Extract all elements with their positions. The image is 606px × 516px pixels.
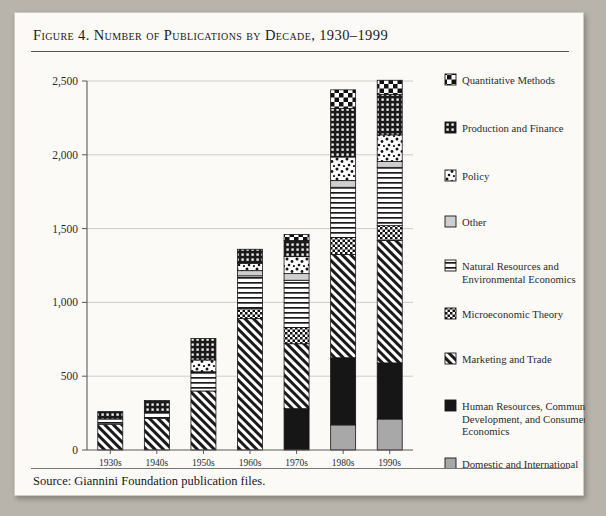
bar-segment [284, 344, 309, 409]
chart-legend: Quantitative MethodsProduction and Finan… [445, 74, 585, 469]
bar-segment [284, 274, 309, 281]
bar-segment [377, 94, 402, 135]
bar-1980s [331, 90, 356, 450]
legend-item: Marketing and Trade [445, 353, 552, 365]
bar-segment [238, 249, 263, 263]
bar-1940s [144, 401, 169, 450]
legend-item: Quantitative Methods [445, 74, 555, 86]
legend-swatch [445, 216, 456, 227]
bar-segment [284, 327, 309, 343]
x-axis-tick-label: 1990s [378, 458, 401, 468]
bar-segment [331, 425, 356, 450]
bar-segment [144, 412, 169, 419]
y-axis-tick-label: 1,000 [52, 296, 78, 309]
legend-item: Human Resources, CommunityDevelopment, a… [445, 400, 585, 437]
x-axis-tick-label: 1950s [192, 458, 215, 468]
bar-segment [377, 240, 402, 363]
bar-segment [331, 254, 356, 357]
y-axis-tick-label: 2,000 [52, 149, 78, 162]
bar-segment [284, 409, 309, 450]
x-axis-tick-label: 1970s [285, 458, 308, 468]
y-axis-tick-label: 500 [61, 370, 79, 382]
legend-label: Marketing and Trade [462, 353, 552, 365]
bar-segment [191, 360, 216, 372]
legend-swatch [445, 74, 456, 85]
legend-swatch [445, 353, 456, 364]
bar-1990s [377, 80, 402, 450]
bar-segment [331, 108, 356, 157]
bar-segment [331, 237, 356, 254]
bars-group [98, 80, 402, 450]
bar-segment [377, 226, 402, 241]
publications-stacked-bar-chart: 05001,0001,5002,0002,500 1930s1940s1950s… [15, 57, 585, 469]
bar-segment [98, 419, 123, 424]
bar-segment [377, 363, 402, 419]
legend-label: Policy [462, 170, 490, 182]
legend-item: Natural Resources andEnvironmental Econo… [445, 260, 576, 285]
bar-segment [377, 167, 402, 225]
bar-segment [98, 424, 123, 450]
bar-segment [331, 157, 356, 181]
legend-item: Microeconomic Theory [445, 308, 564, 320]
bar-segment [377, 419, 402, 450]
bar-segment [284, 257, 309, 274]
bar-segment [377, 161, 402, 167]
bar-segment [144, 418, 169, 450]
legend-swatch [445, 400, 456, 411]
bar-1970s [284, 235, 309, 450]
bar-segment [331, 187, 356, 237]
y-axis-tick-label: 1,500 [52, 223, 78, 236]
bar-segment [377, 80, 402, 94]
x-axis-tick-label: 1940s [146, 458, 169, 468]
bar-1950s [191, 339, 216, 450]
legend-swatch [445, 170, 456, 181]
bar-segment [238, 308, 263, 318]
bar-segment [191, 391, 216, 450]
bar-segment [377, 135, 402, 162]
bar-segment [238, 276, 263, 308]
legend-item: Production and Finance [445, 122, 564, 134]
bar-1960s [238, 249, 263, 450]
bar-segment [191, 339, 216, 360]
page-title: Figure 4. Number of Publications by Deca… [33, 27, 553, 44]
legend-item: Other [445, 216, 487, 228]
legend-label: Quantitative Methods [462, 74, 555, 86]
bar-1930s [98, 412, 123, 450]
legend-swatch [445, 122, 456, 133]
x-axis-tick-label: 1980s [332, 458, 355, 468]
bar-segment [191, 372, 216, 391]
bar-segment [238, 271, 263, 276]
legend-label: Microeconomic Theory [462, 308, 564, 320]
bar-segment [331, 358, 356, 425]
bar-segment [284, 280, 309, 327]
x-axis-tick-label: 1960s [239, 458, 262, 468]
bar-segment [284, 235, 309, 241]
bar-segment [238, 263, 263, 270]
legend-label: Other [462, 216, 487, 228]
legend-item: Policy [445, 170, 490, 182]
bar-segment [284, 240, 309, 256]
y-axis-tick-label: 2,500 [52, 75, 78, 88]
bar-segment [144, 401, 169, 412]
legend-label: Human Resources, CommunityDevelopment, a… [462, 400, 585, 437]
x-axis-tick-label: 1930s [99, 458, 122, 468]
source-note: Source: Giannini Foundation publication … [33, 474, 265, 489]
title-divider [31, 51, 569, 52]
chart-container: 05001,0001,5002,0002,500 1930s1940s1950s… [15, 57, 585, 469]
x-axis-tick-labels: 1930s1940s1950s1960s1970s1980s1990s [99, 458, 401, 468]
legend-swatch [445, 308, 456, 319]
source-divider [31, 468, 569, 469]
y-axis-tick-label: 0 [72, 444, 78, 456]
bar-segment [98, 412, 123, 419]
legend-swatch [445, 260, 456, 271]
bar-segment [238, 319, 263, 450]
y-axis-tick-labels: 05001,0001,5002,0002,500 [52, 75, 78, 456]
bar-segment [331, 90, 356, 108]
figure-card: Figure 4. Number of Publications by Deca… [14, 12, 584, 496]
bar-segment [331, 181, 356, 188]
legend-label: Production and Finance [462, 122, 564, 134]
legend-label: Natural Resources andEnvironmental Econo… [462, 260, 576, 285]
